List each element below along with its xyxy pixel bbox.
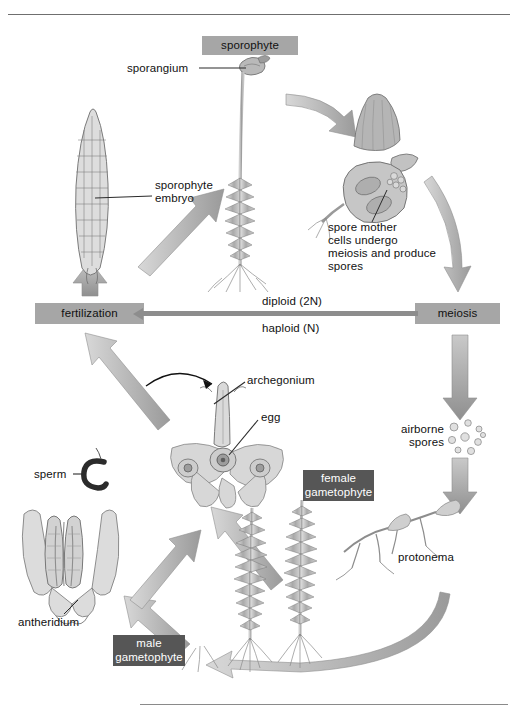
art-archegonium-cluster (146, 373, 283, 508)
top-divider-rule (8, 14, 510, 15)
label-sporangium: sporangium (127, 62, 188, 75)
label-antheridium: antheridium (18, 616, 79, 629)
arrow-sporophyte-to-sporangium-detail (286, 94, 356, 137)
art-sporophyte-plant (208, 56, 270, 293)
art-airborne-spores (448, 420, 485, 455)
chip-male-gametophyte[interactable]: male gametophyte (113, 635, 185, 666)
label-sporophyte-embryo-line1: sporophyte (155, 179, 213, 192)
ploidy-axis-bar (143, 311, 418, 316)
arrow-female-gametophyte-to-archegonium (211, 507, 283, 590)
arrow-spores-to-protonema (443, 458, 477, 514)
label-diploid: diploid (2N) (262, 295, 322, 308)
callout-leader-lines (73, 68, 258, 474)
arrow-to-meiosis (424, 176, 471, 292)
bottom-divider-rule (140, 704, 508, 705)
arrow-antheridium-to-archegonium (130, 530, 201, 609)
label-protonema: protonema (398, 551, 454, 564)
chip-fertilization-label: fertilization (61, 307, 117, 320)
art-sporophyte-embryo (76, 109, 109, 284)
label-archegonium: archegonium (247, 374, 315, 387)
label-sporophyte-embryo-line2: embryo (155, 192, 194, 205)
chip-male-gametophyte-line1: male (136, 637, 161, 650)
art-capsule-detail (308, 94, 418, 240)
diagram-artwork (0, 0, 518, 711)
chip-male-gametophyte-line2: gametophyte (115, 651, 183, 664)
label-spore-mother-line4: spores (328, 260, 363, 273)
art-antheridium-cluster (22, 510, 119, 624)
label-spore-mother-line1: spore mother (328, 221, 397, 234)
art-female-gametophyte (278, 500, 322, 668)
art-protonema (336, 500, 461, 580)
chip-fertilization[interactable]: fertilization (35, 303, 144, 324)
arrow-fertilization-to-embryo (73, 261, 107, 296)
label-airborne-spores-line1: airborne (374, 423, 444, 436)
chip-meiosis[interactable]: meiosis (415, 303, 500, 324)
label-haploid: haploid (N) (262, 322, 319, 335)
label-spore-mother-line3: meiosis and produce (328, 247, 436, 260)
arrow-meiosis-to-spores (443, 335, 477, 420)
arrow-protonema-to-gametophyte (206, 592, 450, 678)
chip-meiosis-label: meiosis (438, 307, 478, 320)
chip-sporophyte-label: sporophyte (221, 39, 279, 52)
chip-sporophyte[interactable]: sporophyte (202, 36, 298, 55)
chip-female-gametophyte[interactable]: female gametophyte (303, 470, 374, 501)
label-sperm: sperm (34, 468, 66, 481)
chip-female-gametophyte-line1: female (321, 472, 356, 485)
label-airborne-spores-line2: spores (374, 436, 444, 449)
chip-female-gametophyte-line2: gametophyte (305, 486, 373, 499)
art-sperm-cell (84, 448, 106, 488)
figure-canvas: sporophyte fertilization meiosis female … (0, 0, 518, 711)
arrow-to-fertilization (85, 333, 170, 430)
art-male-gametophyte (182, 508, 272, 672)
label-egg: egg (261, 411, 281, 424)
label-spore-mother-line2: cells undergo (328, 234, 398, 247)
